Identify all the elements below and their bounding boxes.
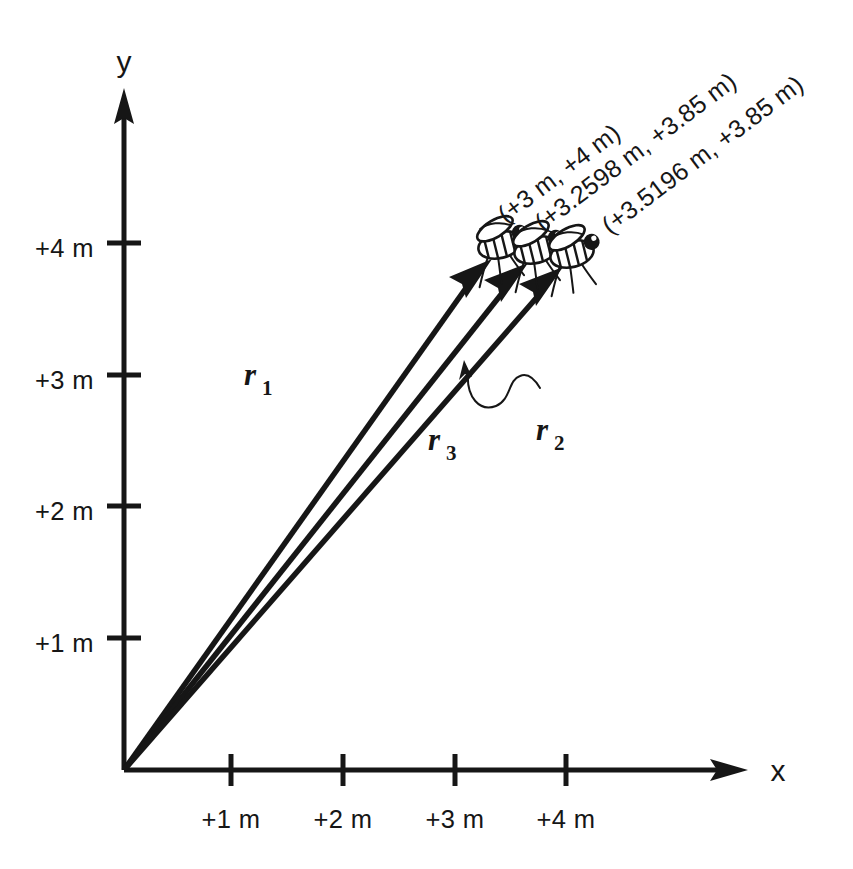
vector-label-r1: r 1 [244, 357, 273, 400]
y-tick-label-2: +2 m [35, 497, 94, 525]
x-tick-label-1: +1 m [202, 805, 261, 833]
vector-r1 [124, 259, 492, 770]
vector-label-r1-sub: 1 [262, 376, 273, 400]
x-axis-label: x [771, 754, 786, 787]
axis-x [124, 759, 748, 781]
vector-label-r3: r 3 [428, 422, 457, 465]
axis-y [114, 88, 134, 770]
diagram-canvas: +1 m +2 m +3 m +4 m +1 m +2 m +3 m +4 m … [0, 0, 853, 869]
y-tick-label-4: +4 m [35, 234, 94, 262]
vector-label-r2: r 2 [459, 360, 565, 455]
y-tick-label-1: +1 m [35, 629, 94, 657]
vector-label-r1-base: r [244, 357, 257, 392]
y-axis-label: y [117, 45, 132, 78]
physics-vector-diagram: +1 m +2 m +3 m +4 m +1 m +2 m +3 m +4 m … [0, 0, 853, 869]
vector-label-r3-base: r [428, 422, 441, 457]
vector-label-r3-sub: 3 [446, 441, 457, 465]
x-tick-label-4: +4 m [537, 805, 596, 833]
vector-label-r2-sub: 2 [554, 431, 565, 455]
vector-label-r2-base: r [536, 412, 549, 447]
y-tick-label-3: +3 m [35, 366, 94, 394]
x-tick-label-2: +2 m [314, 805, 373, 833]
x-tick-label-3: +3 m [426, 805, 485, 833]
vector-r2 [124, 263, 528, 770]
vector-r3 [124, 267, 563, 770]
